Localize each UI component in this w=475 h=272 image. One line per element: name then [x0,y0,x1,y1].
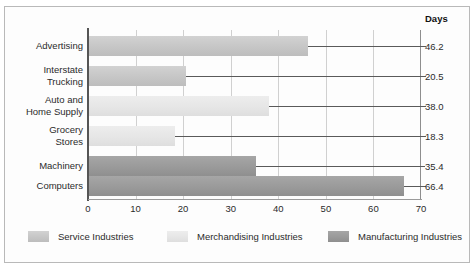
value-label-grocery-stores: 18.3 [425,131,444,142]
xtick-20: 20 [178,203,189,214]
category-axis-labels: Advertising Interstate Trucking Auto and… [0,30,83,199]
legend-item-manufacturing-industries[interactable]: Manufacturing Industries [328,229,462,243]
bar-interstate-trucking [88,66,186,86]
legend-swatch-icon-service [28,231,49,242]
value-label-auto-and-home-supply: 38.0 [425,101,444,112]
bar-row [88,126,421,146]
leader-line-auto-and-home-supply [269,106,426,107]
xtick-50: 50 [321,203,332,214]
xtick-70: 70 [416,203,427,214]
legend-label-service-industries: Service Industries [58,231,134,242]
leader-line-grocery-stores [175,136,426,137]
bar-chart: Advertising Interstate Trucking Auto and… [0,0,475,272]
category-label-machinery: Machinery [0,160,83,172]
x-axis-line [88,199,422,200]
leader-line-advertising [308,46,426,47]
bar-machinery [88,156,256,176]
bar-row [88,156,421,176]
bar-row [88,96,421,116]
value-label-interstate-trucking: 20.5 [425,71,444,82]
category-label-computers: Computers [0,180,83,192]
xtick-0: 0 [85,203,90,214]
plot-area [88,30,421,199]
category-label-advertising: Advertising [0,40,83,52]
bar-computers [88,176,404,196]
legend-label-merchandising-industries: Merchandising Industries [197,231,303,242]
bar-row [88,176,421,196]
bar-row [88,66,421,86]
value-label-advertising: 46.2 [425,41,444,52]
legend-item-merchandising-industries[interactable]: Merchandising Industries [167,229,303,243]
bar-grocery-stores [88,126,175,146]
bar-advertising [88,36,308,56]
category-label-grocery-stores: Grocery Stores [0,124,83,147]
category-label-auto-and-home-supply: Auto and Home Supply [0,94,83,117]
xtick-60: 60 [368,203,379,214]
legend-swatch-icon-merchandising [167,231,188,242]
category-label-interstate-trucking: Interstate Trucking [0,64,83,87]
y-axis-line [87,28,89,201]
leader-line-computers [404,186,426,187]
value-label-machinery: 35.4 [425,161,444,172]
bar-auto-and-home-supply [88,96,269,116]
legend-swatch-icon-manufacturing [328,231,349,242]
xtick-30: 30 [225,203,236,214]
leader-line-machinery [256,166,425,167]
leader-line-interstate-trucking [186,76,426,77]
xtick-40: 40 [273,203,284,214]
legend-item-service-industries[interactable]: Service Industries [28,229,134,243]
value-labels: 46.2 20.5 38.0 18.3 35.4 66.4 [425,30,473,199]
value-label-computers: 66.4 [425,181,444,192]
bar-row [88,36,421,56]
days-column-header: Days [425,13,448,24]
xtick-10: 10 [130,203,141,214]
chart-legend: Service Industries Merchandising Industr… [28,229,448,247]
legend-label-manufacturing-industries: Manufacturing Industries [358,231,462,242]
